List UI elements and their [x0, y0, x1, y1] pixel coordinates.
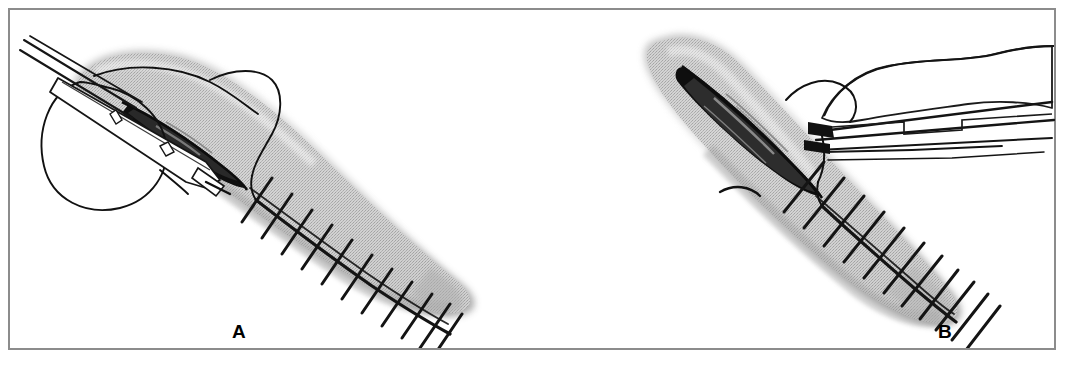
figure-root: A Wound edge being closed with continuou… [0, 0, 1072, 371]
panel-a-illustration [10, 10, 534, 348]
forceps-instrument-b [804, 46, 1054, 160]
panel-b-illustration [532, 10, 1056, 348]
panel-a: A Wound edge being closed with continuou… [10, 10, 534, 348]
panel-label-b: B [938, 322, 952, 341]
panel-label-a: A [232, 322, 246, 341]
panel-b: B Continued closure with running suture;… [532, 10, 1056, 348]
figure-frame: A Wound edge being closed with continuou… [8, 8, 1056, 350]
tissue-mass-a [73, 50, 474, 317]
